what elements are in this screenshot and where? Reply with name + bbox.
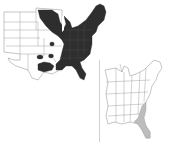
- range-map-left-svg: [0, 0, 110, 90]
- range-map-right: [100, 58, 170, 145]
- range-blob-2: [37, 55, 43, 59]
- range-map-right-svg: [100, 58, 170, 145]
- range-blob-1: [50, 42, 54, 46]
- eastern-us-outline: [105, 60, 162, 138]
- range-map-left: [0, 0, 110, 90]
- lake-gap: [62, 16, 64, 32]
- range-blob-3: [49, 54, 54, 58]
